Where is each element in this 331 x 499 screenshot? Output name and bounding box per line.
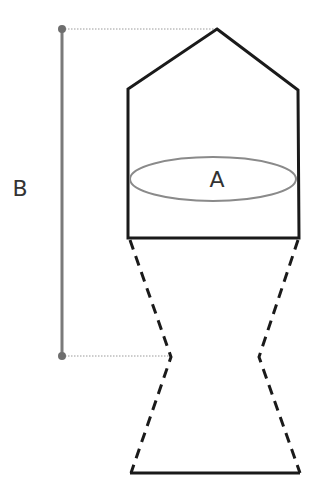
label-a: A — [209, 167, 224, 192]
measure-endpoint-bottom — [58, 352, 66, 360]
measure-endpoint-top — [58, 25, 66, 33]
label-b: B — [12, 176, 27, 201]
upper-body-outline — [128, 29, 299, 238]
diagram-canvas: A B — [0, 0, 331, 499]
